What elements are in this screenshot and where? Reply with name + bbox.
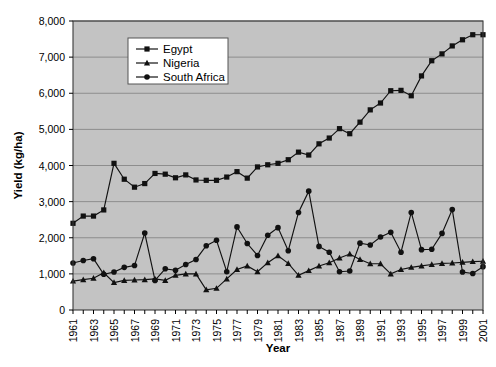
x-tick-label: 1991 xyxy=(375,319,387,343)
x-tick-label: 1987 xyxy=(334,319,346,343)
data-point-marker xyxy=(152,171,157,176)
data-point-marker xyxy=(470,32,475,37)
data-point-marker xyxy=(132,185,137,190)
data-point-marker xyxy=(327,135,332,140)
data-point-marker xyxy=(398,88,403,93)
data-point-marker xyxy=(101,271,107,277)
data-point-marker xyxy=(132,263,138,269)
data-point-marker xyxy=(408,210,414,216)
data-point-marker xyxy=(193,177,198,182)
x-tick-label: 1997 xyxy=(436,319,448,343)
y-tick-label: 3,000 xyxy=(39,196,65,208)
x-tick-label: 1963 xyxy=(88,319,100,343)
data-point-marker xyxy=(173,267,179,273)
y-tick-label: 7,000 xyxy=(39,51,65,63)
x-tick-label: 1975 xyxy=(211,319,223,343)
data-point-marker xyxy=(429,58,434,63)
data-point-marker xyxy=(337,126,342,131)
x-tick-label: 1979 xyxy=(252,319,264,343)
data-point-marker xyxy=(111,269,117,275)
data-point-marker xyxy=(122,177,127,182)
x-axis-title: Year xyxy=(266,342,291,354)
y-tick-label: 6,000 xyxy=(39,87,65,99)
data-point-marker xyxy=(204,178,209,183)
data-point-marker xyxy=(234,169,239,174)
data-point-marker xyxy=(388,230,394,236)
data-point-marker xyxy=(80,258,86,264)
x-tick-label: 1971 xyxy=(170,319,182,343)
data-point-marker xyxy=(460,269,466,275)
data-point-marker xyxy=(326,249,332,255)
y-tick-label: 8,000 xyxy=(39,15,65,27)
data-point-marker xyxy=(183,262,189,268)
data-point-marker xyxy=(398,249,404,255)
data-point-marker xyxy=(265,162,270,167)
x-tick-label: 1989 xyxy=(354,319,366,343)
data-point-marker xyxy=(460,37,465,42)
x-tick-label: 2001 xyxy=(477,319,489,343)
data-point-marker xyxy=(193,257,199,263)
data-point-marker xyxy=(367,242,373,248)
legend-item-label: Egypt xyxy=(163,43,193,55)
data-point-marker xyxy=(234,224,240,230)
data-point-marker xyxy=(183,172,188,177)
data-point-marker xyxy=(296,210,302,216)
data-point-marker xyxy=(378,234,384,240)
x-tick-label: 1993 xyxy=(395,319,407,343)
data-point-marker xyxy=(285,248,291,254)
x-tick-label: 1965 xyxy=(108,319,120,343)
data-point-marker xyxy=(255,253,261,259)
x-tick-label: 1977 xyxy=(231,319,243,343)
y-axis-title: Yield (kg/ha) xyxy=(12,131,24,199)
data-point-marker xyxy=(224,269,230,275)
data-point-marker xyxy=(275,225,281,231)
data-point-marker xyxy=(429,247,435,253)
data-point-marker xyxy=(265,232,271,238)
data-point-marker xyxy=(419,247,425,253)
legend-item-label: Nigeria xyxy=(163,57,200,69)
x-tick-label: 1983 xyxy=(293,319,305,343)
x-tick-label: 1981 xyxy=(272,319,284,343)
data-point-marker xyxy=(275,161,280,166)
data-point-marker xyxy=(286,157,291,162)
data-point-marker xyxy=(163,172,168,177)
data-point-marker xyxy=(101,207,106,212)
chart-legend: EgyptNigeriaSouth Africa xyxy=(128,38,228,84)
data-point-marker xyxy=(142,181,147,186)
data-point-marker xyxy=(316,244,322,250)
data-point-marker xyxy=(244,241,250,247)
data-point-marker xyxy=(306,152,311,157)
data-point-marker xyxy=(368,107,373,112)
x-tick-label: 1985 xyxy=(313,319,325,343)
chart-container: 01,0002,0003,0004,0005,0006,0007,0008,00… xyxy=(0,0,496,367)
legend-marker-square-icon xyxy=(144,46,149,51)
data-point-marker xyxy=(470,271,476,277)
data-point-marker xyxy=(296,150,301,155)
y-tick-label: 1,000 xyxy=(39,268,65,280)
data-point-marker xyxy=(449,207,455,213)
data-point-marker xyxy=(214,178,219,183)
legend-marker-circle-icon xyxy=(144,74,150,80)
data-point-marker xyxy=(121,265,127,271)
data-point-marker xyxy=(316,141,321,146)
x-tick-label: 1967 xyxy=(129,319,141,343)
y-tick-label: 5,000 xyxy=(39,123,65,135)
data-point-marker xyxy=(439,231,445,237)
y-tick-label: 2,000 xyxy=(39,232,65,244)
data-point-marker xyxy=(203,243,209,249)
x-tick-label: 1961 xyxy=(67,319,79,343)
data-point-marker xyxy=(255,164,260,169)
data-point-marker xyxy=(152,278,158,284)
data-point-marker xyxy=(378,100,383,105)
data-point-marker xyxy=(450,43,455,48)
data-point-marker xyxy=(142,230,148,236)
yield-line-chart: 01,0002,0003,0004,0005,0006,0007,0008,00… xyxy=(0,0,496,367)
data-point-marker xyxy=(439,51,444,56)
data-point-marker xyxy=(347,131,352,136)
data-point-marker xyxy=(111,161,116,166)
x-tick-label: 1969 xyxy=(149,319,161,343)
x-tick-label: 1995 xyxy=(416,319,428,343)
data-point-marker xyxy=(419,73,424,78)
data-point-marker xyxy=(357,240,363,246)
data-point-marker xyxy=(91,213,96,218)
